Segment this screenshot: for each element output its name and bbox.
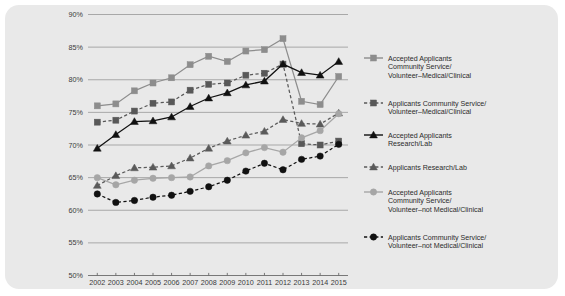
y-axis-tick-label: 55%	[69, 238, 84, 247]
data-point-marker-square	[113, 101, 119, 107]
data-point-marker-square	[317, 142, 323, 148]
data-point-marker-square	[224, 80, 230, 86]
data-point-marker-square	[150, 80, 156, 86]
legend-label: Volunteer–Medical/Clinical	[388, 72, 472, 80]
data-point-marker-circle	[261, 160, 267, 166]
legend-item-1[interactable]: Applicants Community Service/Volunteer–M…	[364, 100, 486, 117]
data-point-marker-circle	[131, 177, 137, 183]
data-point-marker-circle	[298, 156, 304, 162]
y-axis-tick-label: 65%	[69, 173, 84, 182]
series-2	[93, 58, 342, 151]
legend-label: Applicants Community Service/	[388, 234, 486, 242]
data-point-marker-square	[299, 98, 305, 104]
data-point-marker-square	[243, 72, 249, 78]
data-point-marker-triangle	[261, 127, 269, 134]
series-0	[94, 36, 341, 109]
data-point-marker-circle	[280, 149, 286, 155]
x-axis-tick-label: 2009	[219, 278, 235, 287]
data-point-marker-circle	[317, 127, 323, 133]
y-axis-tick-label: 50%	[69, 271, 84, 280]
x-axis-tick-label: 2004	[126, 278, 142, 287]
data-point-marker-circle	[168, 192, 174, 198]
data-point-marker-triangle	[205, 144, 213, 151]
x-axis-tick-label: 2007	[182, 278, 198, 287]
data-point-marker-square	[336, 73, 342, 79]
legend-label: Applicants Research/Lab	[388, 164, 467, 172]
y-axis-tick-label: 70%	[69, 141, 84, 150]
legend-label: Volunteer–Medical/Clinical	[388, 108, 472, 116]
data-point-marker-square	[243, 48, 249, 54]
data-point-marker-circle	[370, 189, 376, 195]
x-axis-tick-label: 2008	[201, 278, 217, 287]
data-point-marker-circle	[224, 157, 230, 163]
x-axis: 2002200320042005200620072008200920102011…	[88, 273, 348, 287]
data-point-marker-square	[131, 88, 137, 94]
data-point-marker-triangle	[112, 172, 120, 179]
data-point-marker-square	[150, 100, 156, 106]
data-point-marker-circle	[94, 191, 100, 197]
data-point-marker-triangle	[131, 164, 139, 171]
data-point-marker-circle	[168, 174, 174, 180]
data-point-marker-square	[94, 103, 100, 109]
x-axis-tick-label: 2014	[312, 278, 328, 287]
data-point-marker-circle	[298, 135, 304, 141]
series-line	[97, 64, 338, 145]
data-point-marker-triangle	[168, 113, 176, 120]
data-point-marker-triangle	[316, 120, 324, 127]
data-point-marker-circle	[336, 110, 342, 116]
legend-label: Accepted Applicants	[388, 55, 452, 63]
data-point-marker-triangle	[186, 154, 194, 161]
data-point-marker-triangle	[168, 162, 176, 169]
data-point-marker-circle	[280, 167, 286, 173]
data-point-marker-circle	[150, 194, 156, 200]
legend-item-2[interactable]: Accepted ApplicantsResearch/Lab	[364, 131, 452, 148]
data-point-marker-square	[261, 47, 267, 53]
legend-item-3[interactable]: Applicants Research/Lab	[364, 163, 467, 171]
chart-svg: 50%55%60%65%70%75%80%85%90%2002200320042…	[0, 0, 565, 296]
data-point-marker-triangle	[223, 89, 231, 96]
data-point-marker-square	[206, 53, 212, 59]
x-axis-tick-label: 2003	[108, 278, 124, 287]
legend-label: Applicants Community Service/	[388, 100, 486, 108]
series-5	[94, 141, 342, 205]
data-point-marker-triangle	[186, 103, 194, 110]
data-point-marker-circle	[243, 168, 249, 174]
x-axis-tick-label: 2010	[238, 278, 254, 287]
data-point-marker-square	[187, 87, 193, 93]
data-point-marker-square	[371, 55, 377, 61]
series-3	[93, 109, 342, 188]
data-point-marker-square	[299, 141, 305, 147]
data-point-marker-circle	[224, 177, 230, 183]
x-axis-tick-label: 2005	[145, 278, 161, 287]
legend-label: Accepted Applicants	[388, 132, 452, 140]
x-axis-tick-label: 2012	[275, 278, 291, 287]
line-chart: 50%55%60%65%70%75%80%85%90%2002200320042…	[0, 0, 565, 296]
data-point-marker-square	[131, 108, 137, 114]
data-point-marker-circle	[113, 182, 119, 188]
data-point-marker-triangle	[93, 144, 101, 151]
legend-item-0[interactable]: Accepted ApplicantsCommunity Service/Vol…	[364, 55, 472, 80]
data-point-marker-triangle	[279, 116, 287, 123]
series-line	[97, 144, 338, 202]
legend-item-5[interactable]: Applicants Community Service/Volunteer–n…	[364, 234, 486, 251]
data-point-marker-square	[280, 36, 286, 42]
data-point-marker-circle	[206, 184, 212, 190]
data-point-marker-triangle	[335, 58, 343, 65]
legend-label: Accepted Applicants	[388, 189, 452, 197]
y-axis-tick-label: 75%	[69, 108, 84, 117]
x-axis-tick-label: 2013	[294, 278, 310, 287]
data-point-marker-square	[261, 70, 267, 76]
data-point-marker-circle	[131, 197, 137, 203]
data-point-marker-circle	[370, 234, 376, 240]
data-point-marker-triangle	[242, 131, 250, 138]
data-point-marker-circle	[243, 150, 249, 156]
x-axis-tick-label: 2015	[331, 278, 347, 287]
data-point-marker-circle	[113, 199, 119, 205]
data-point-marker-square	[371, 100, 377, 106]
data-point-marker-circle	[317, 153, 323, 159]
data-point-marker-square	[113, 117, 119, 123]
data-point-marker-circle	[187, 174, 193, 180]
legend-item-4[interactable]: Accepted ApplicantsCommunity Service/Vol…	[364, 189, 483, 214]
y-axis-tick-label: 90%	[69, 10, 84, 19]
data-point-marker-circle	[206, 163, 212, 169]
